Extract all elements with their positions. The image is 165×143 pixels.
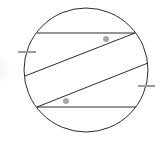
angle-marker-bottom <box>63 98 69 104</box>
angle-marker-top <box>103 36 109 42</box>
chord-upper-slanted <box>25 33 135 76</box>
chord-lower-slanted <box>37 63 148 107</box>
geometry-diagram <box>0 0 165 143</box>
